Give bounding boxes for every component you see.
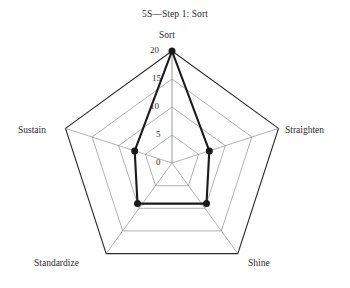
- axis-label-straighten: Straighten: [285, 125, 324, 135]
- axis-spoke-straighten: [172, 128, 279, 163]
- data-point-shine: [203, 200, 210, 207]
- axis-label-sustain: Sustain: [18, 125, 46, 135]
- tick-label-15: 15: [152, 73, 161, 83]
- tick-label-10: 10: [150, 101, 159, 111]
- data-point-straighten: [206, 147, 213, 154]
- data-point-sort: [169, 48, 176, 55]
- radar-plot-area: [0, 0, 350, 288]
- radar-chart-figure: 5S—Step 1: Sort 20 15 10 5 0 Sort Straig…: [0, 0, 350, 288]
- tick-label-5: 5: [156, 129, 161, 139]
- tick-label-0: 0: [156, 157, 161, 167]
- axis-label-shine: Shine: [248, 258, 270, 268]
- axis-label-standardize: Standardize: [34, 258, 79, 268]
- data-point-standardize: [134, 200, 141, 207]
- tick-label-20: 20: [150, 45, 159, 55]
- axis-label-sort: Sort: [159, 30, 175, 40]
- data-point-sustain: [131, 147, 138, 154]
